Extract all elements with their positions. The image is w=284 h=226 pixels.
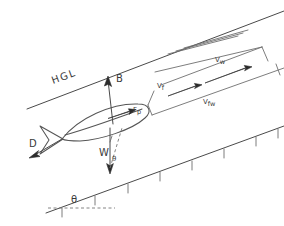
propulsion-label-sub: p [137,108,141,116]
channel-bed-line [46,126,284,213]
diagram-canvas: θ B Fp W [0,0,284,226]
velocity-water-label-sub: w [220,58,226,66]
body-angle-label: θ [112,155,116,163]
weight-label: W [99,147,109,158]
hgl-label: HGL [50,67,78,86]
drag-label: D [29,138,37,149]
velocity-fish-water-label: Vfw [203,98,216,108]
buoyancy-vector [104,76,113,124]
velocity-fish-water-dimension-bracket [148,64,284,115]
bed-hatch-ticks [62,129,278,217]
velocity-fish-vector [168,83,202,96]
velocity-water-vector [205,65,252,83]
propulsion-label: Fp [133,106,141,116]
buoyancy-label: B [116,73,123,84]
free-body-diagram: θ B Fp W [0,0,284,226]
velocity-fish-water-label-sub: fw [208,100,216,108]
velocity-fish-label: Vf [157,82,165,92]
slope-angle-label: θ [71,194,77,205]
hydraulic-grade-line [27,11,284,109]
velocity-fish-dimension-bracket [148,91,154,105]
velocity-fish-label-sub: f [162,84,165,92]
